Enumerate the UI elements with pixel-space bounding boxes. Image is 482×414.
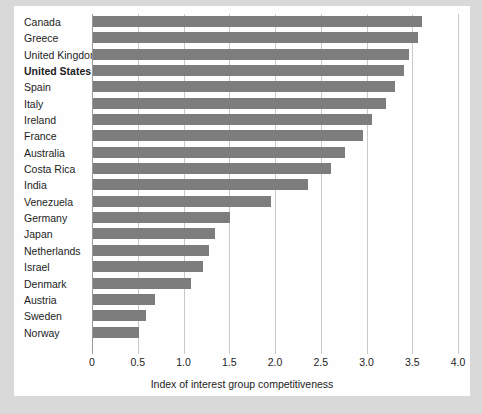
bar-row	[92, 96, 458, 112]
bar-row	[92, 79, 458, 95]
bar-greece	[93, 32, 418, 43]
x-tick-0: 0	[89, 356, 95, 368]
bar-row	[92, 30, 458, 46]
bar-israel	[93, 261, 203, 272]
category-label-netherlands: Netherlands	[24, 243, 90, 259]
bar-canada	[93, 16, 422, 27]
category-label-venezuela: Venezuela	[24, 194, 90, 210]
category-label-ireland: Ireland	[24, 112, 90, 128]
bar-row	[92, 210, 458, 226]
x-tick-1.5: 1.5	[222, 356, 237, 368]
category-label-greece: Greece	[24, 30, 90, 46]
bar-row	[92, 276, 458, 292]
x-tick-2.0: 2.0	[268, 356, 283, 368]
bar-row	[92, 308, 458, 324]
category-label-israel: Israel	[24, 259, 90, 275]
bar-row	[92, 14, 458, 30]
figure-card: CanadaGreeceUnited KingdomUnited StatesS…	[14, 6, 470, 396]
category-label-india: India	[24, 177, 90, 193]
bar-spain	[93, 81, 395, 92]
bar-costa-rica	[93, 163, 331, 174]
category-label-france: France	[24, 128, 90, 144]
category-label-canada: Canada	[24, 14, 90, 30]
x-tick-3.0: 3.0	[359, 356, 374, 368]
category-label-spain: Spain	[24, 79, 90, 95]
category-label-costa-rica: Costa Rica	[24, 161, 90, 177]
x-tick-4.0: 4.0	[451, 356, 466, 368]
category-label-norway: Norway	[24, 325, 90, 341]
bar-row	[92, 259, 458, 275]
plot-area	[92, 14, 458, 354]
bar-row	[92, 112, 458, 128]
category-axis-labels: CanadaGreeceUnited KingdomUnited StatesS…	[24, 14, 90, 354]
bar-row	[92, 177, 458, 193]
bar-row	[92, 325, 458, 341]
bar-row	[92, 63, 458, 79]
category-label-united-states: United States	[24, 63, 90, 79]
bar-row	[92, 47, 458, 63]
bar-japan	[93, 228, 215, 239]
bar-austria	[93, 294, 155, 305]
gridline-4.0	[458, 14, 459, 354]
x-axis-tick-labels: 00.51.01.52.02.53.03.54.0	[92, 356, 458, 372]
bar-india	[93, 179, 308, 190]
bar-row	[92, 194, 458, 210]
x-tick-1.0: 1.0	[176, 356, 191, 368]
bar-row	[92, 145, 458, 161]
category-label-italy: Italy	[24, 96, 90, 112]
x-axis-title: Index of interest group competitiveness	[14, 378, 470, 390]
bar-row	[92, 292, 458, 308]
category-label-japan: Japan	[24, 226, 90, 242]
bar-australia	[93, 147, 345, 158]
bar-sweden	[93, 310, 146, 321]
bar-germany	[93, 212, 230, 223]
category-label-sweden: Sweden	[24, 308, 90, 324]
bar-chart: CanadaGreeceUnited KingdomUnited StatesS…	[14, 6, 470, 396]
bar-italy	[93, 98, 386, 109]
bar-denmark	[93, 278, 191, 289]
bar-row	[92, 161, 458, 177]
x-tick-3.5: 3.5	[405, 356, 420, 368]
bar-row	[92, 226, 458, 242]
category-label-denmark: Denmark	[24, 276, 90, 292]
x-tick-2.5: 2.5	[313, 356, 328, 368]
bar-netherlands	[93, 245, 209, 256]
bar-norway	[93, 327, 139, 338]
bar-series	[92, 14, 458, 354]
category-label-united-kingdom: United Kingdom	[24, 47, 90, 63]
bar-united-kingdom	[93, 49, 409, 60]
x-tick-0.5: 0.5	[130, 356, 145, 368]
category-label-australia: Australia	[24, 145, 90, 161]
category-label-germany: Germany	[24, 210, 90, 226]
category-label-austria: Austria	[24, 292, 90, 308]
bar-france	[93, 130, 363, 141]
bar-venezuela	[93, 196, 271, 207]
bar-united-states	[93, 65, 404, 76]
bar-row	[92, 128, 458, 144]
bar-ireland	[93, 114, 372, 125]
bar-row	[92, 243, 458, 259]
